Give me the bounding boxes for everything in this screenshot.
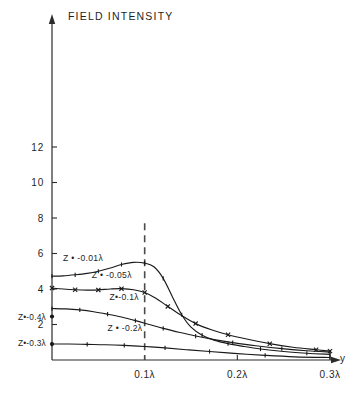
y-tick-label: 10 (31, 177, 44, 188)
x-tick-label: 0.1λ (134, 369, 155, 380)
x-tick-label: 0.3λ (320, 369, 341, 380)
y-tick-label: 8 (38, 213, 44, 224)
x-axis-name: y (340, 353, 345, 364)
series-label: Z • -0.2λ (108, 323, 143, 333)
field-intensity-chart: 121086420.1λ0.2λ0.3λZ • -0.01λZ • -0.05λ… (0, 0, 361, 398)
y-axis-arrow-icon (49, 14, 55, 24)
axes (49, 14, 341, 363)
y-tick-label: 4 (38, 284, 44, 295)
series-1 (50, 286, 332, 353)
x-tick-label: 0.2λ (227, 369, 248, 380)
chart-title: FIELD INTENSITY (68, 10, 174, 22)
series-label: Z • -0.01λ (63, 253, 103, 263)
y-tick-label: 12 (31, 142, 44, 153)
y-axis-label: Z•-0.4λ (18, 312, 47, 322)
series-line (52, 309, 330, 352)
chart-svg: 121086420.1λ0.2λ0.3λZ • -0.01λZ • -0.05λ… (0, 0, 361, 398)
series-3 (52, 342, 330, 360)
series-label: Z • -0.05λ (92, 270, 132, 280)
y-axis-label: Z•-0.3λ (18, 338, 47, 348)
series-label: Z•-0.1λ (109, 292, 139, 302)
series-line (52, 288, 330, 351)
axis-dot (50, 314, 54, 318)
y-tick-label: 6 (38, 248, 44, 259)
